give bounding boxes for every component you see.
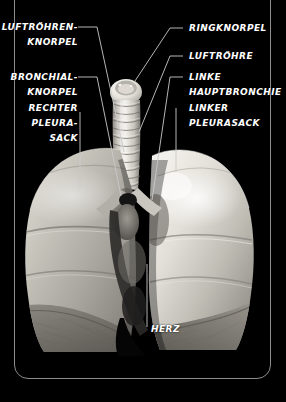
label-herz: HERZ xyxy=(151,325,180,334)
leader-luftroehren-knorpel xyxy=(78,27,124,152)
label-rechter-pleurasack-line2: PLEURA- xyxy=(0,119,78,128)
leader-linke-hauptbronchie xyxy=(152,77,183,200)
label-linke-hauptbronchie-line2: HAUPTBRONCHIE xyxy=(189,88,282,97)
label-bronchial-knorpel-line1: BRONCHIAL- xyxy=(0,73,78,82)
leader-bronchial-knorpel xyxy=(78,77,121,196)
label-luftroehren-knorpel-line2: KNORPEL xyxy=(0,38,78,47)
label-rechter-pleurasack-line1: RECHTER xyxy=(0,104,78,113)
label-ringknorpel: RINGKNORPEL xyxy=(189,24,267,33)
label-rechter-pleurasack-line3: SACK xyxy=(0,134,78,143)
label-luftroehre: LUFTRÖHRE xyxy=(189,52,253,61)
label-luftroehren-knorpel-line1: LUFTRÖHREN- xyxy=(0,23,78,32)
label-bronchial-knorpel-line2: KNORPEL xyxy=(0,88,78,97)
label-linker-pleurasack-line1: LINKER xyxy=(189,104,228,113)
label-linke-hauptbronchie-line1: LINKE xyxy=(189,73,221,82)
label-linker-pleurasack-line2: PLEURASACK xyxy=(189,119,260,128)
anatomy-plate: LUFTRÖHREN- KNORPEL BRONCHIAL- KNORPEL R… xyxy=(0,0,286,402)
